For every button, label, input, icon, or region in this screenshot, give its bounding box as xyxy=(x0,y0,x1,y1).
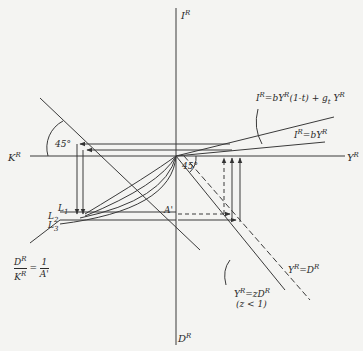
marker-a-prime: A' xyxy=(164,206,173,215)
axis-label-demand: DR xyxy=(178,333,191,344)
axis-label-investment: IR xyxy=(181,10,190,21)
label-y-equals-z-d: YR=zDR xyxy=(234,288,270,299)
marker-l1: L1 xyxy=(58,204,68,216)
line-y-equals-z-d xyxy=(176,156,285,290)
marker-l3: L3 xyxy=(48,221,58,233)
label-z-condition: (z < 1) xyxy=(236,300,267,309)
axis-label-output: YR xyxy=(347,152,359,163)
angle-label-center: 45° xyxy=(182,162,198,171)
label-y-equals-d: YR=DR xyxy=(288,264,319,275)
label-ratio: DRKR = 1A' xyxy=(14,254,49,283)
axis-label-capital: KR xyxy=(8,152,21,163)
angle-label-upper-left: 45° xyxy=(55,140,71,149)
line-y-equals-d xyxy=(184,156,310,300)
curve-l1 xyxy=(85,156,176,214)
label-investment-simple: IR=bYR xyxy=(294,129,327,140)
label-investment-total: IR=bYR(1-t) + gt YR xyxy=(256,92,345,106)
four-quadrant-diagram xyxy=(0,0,363,351)
